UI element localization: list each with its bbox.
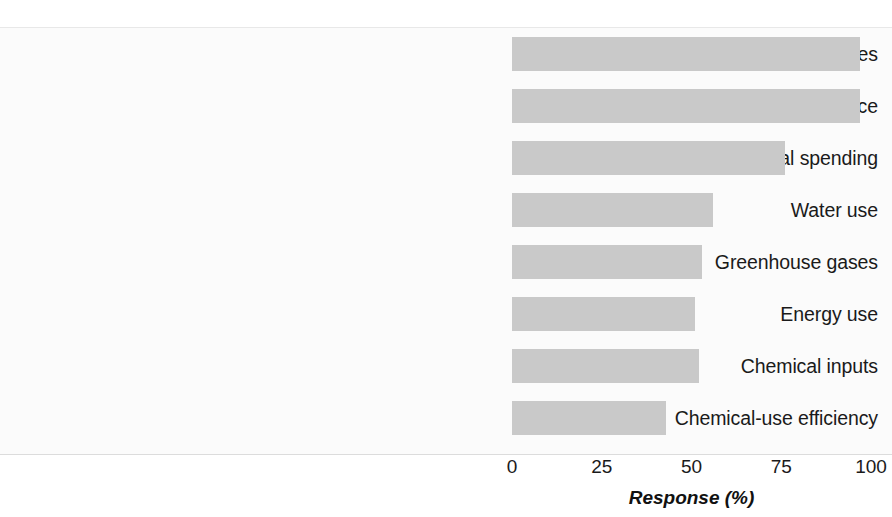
bar bbox=[512, 245, 702, 279]
bar-track bbox=[512, 141, 871, 175]
bar bbox=[512, 141, 785, 175]
bar-rows: Chemical releases Regulatory compliance … bbox=[0, 28, 892, 456]
bar-track bbox=[512, 297, 871, 331]
bar-row: Chemical releases bbox=[0, 28, 892, 80]
bar-row: Regulatory compliance bbox=[0, 80, 892, 132]
x-axis-title: Response (%) bbox=[512, 487, 871, 509]
bar-track bbox=[512, 37, 871, 71]
bar-row: Chemical inputs bbox=[0, 340, 892, 392]
bar-track bbox=[512, 349, 871, 383]
bar bbox=[512, 37, 860, 71]
bar-row: Water use bbox=[0, 184, 892, 236]
bar-track bbox=[512, 245, 871, 279]
x-tick-label: 75 bbox=[771, 456, 792, 478]
bar bbox=[512, 297, 695, 331]
bar bbox=[512, 349, 699, 383]
bar-row: Energy use bbox=[0, 288, 892, 340]
x-tick-label: 0 bbox=[507, 456, 518, 478]
bar-track bbox=[512, 193, 871, 227]
bar-track bbox=[512, 401, 871, 435]
plot-area: Chemical releases Regulatory compliance … bbox=[0, 27, 892, 455]
bar-row: Chemical-use efficiency bbox=[0, 392, 892, 444]
x-axis: 0 25 50 75 100 bbox=[512, 456, 871, 486]
bar-row: Environmental spending bbox=[0, 132, 892, 184]
x-tick-label: 50 bbox=[681, 456, 702, 478]
x-tick-label: 100 bbox=[855, 456, 887, 478]
figure-container: Chemical releases Regulatory compliance … bbox=[0, 0, 892, 517]
bar-track bbox=[512, 89, 871, 123]
cropped-header-text bbox=[0, 0, 892, 14]
x-tick-label: 25 bbox=[591, 456, 612, 478]
bar-row: Greenhouse gases bbox=[0, 236, 892, 288]
bar bbox=[512, 401, 666, 435]
bar bbox=[512, 89, 860, 123]
bar bbox=[512, 193, 713, 227]
